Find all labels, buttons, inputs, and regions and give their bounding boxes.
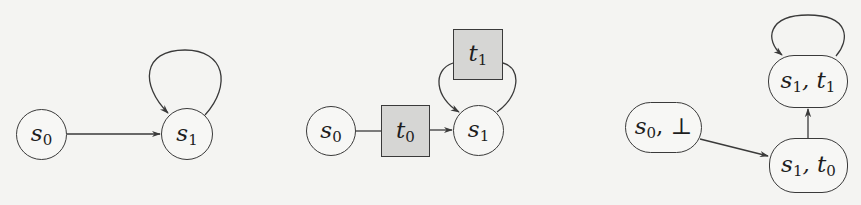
state-node-s1: s1 — [453, 105, 504, 156]
node-label: s0 — [31, 120, 52, 149]
self-loop-s1t1 — [772, 15, 845, 56]
product-node-s0-bottom: s0, ⊥ — [625, 102, 702, 153]
self-loop-s1 — [149, 50, 221, 115]
node-label: s1 — [176, 120, 197, 149]
product-node-s1-t0: s1, t0 — [769, 138, 848, 193]
node-label: s1 — [468, 116, 489, 145]
state-node-s0: s0 — [16, 109, 67, 160]
node-label: s1, t1 — [781, 67, 836, 96]
state-node-s1: s1 — [161, 108, 213, 160]
figure-canvas: s0 s1 s0 t0 s1 t1 s0, ⊥ s1, t1 s1, t0 — [0, 0, 861, 205]
transition-node-t1: t1 — [453, 29, 503, 80]
transition-node-t0: t0 — [381, 105, 430, 157]
node-label: t1 — [469, 40, 488, 69]
node-label: s0, ⊥ — [635, 113, 693, 142]
product-node-s1-t1: s1, t1 — [768, 55, 848, 108]
edge-s0bot-s1t0 — [700, 139, 768, 156]
node-label: s0 — [320, 117, 341, 146]
edges-layer — [0, 0, 861, 205]
node-label: t0 — [396, 117, 415, 146]
state-node-s0: s0 — [306, 106, 356, 156]
node-label: s1, t0 — [781, 151, 836, 180]
